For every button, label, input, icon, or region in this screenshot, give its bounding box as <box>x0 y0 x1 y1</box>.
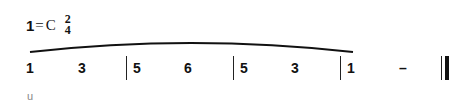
note: 6 <box>184 60 192 76</box>
note: 3 <box>78 60 86 76</box>
final-barline-thin <box>441 56 442 80</box>
note: 5 <box>240 60 248 76</box>
barline <box>126 56 127 80</box>
note: 1 <box>347 60 355 76</box>
slur-icon <box>0 0 471 112</box>
note: 3 <box>291 60 299 76</box>
final-barline-thick <box>445 56 449 80</box>
note: 5 <box>133 60 141 76</box>
lyric-text: u <box>27 90 33 102</box>
barline <box>340 56 341 80</box>
dash-hold: – <box>399 60 407 76</box>
note: 1 <box>26 60 34 76</box>
barline <box>233 56 234 80</box>
